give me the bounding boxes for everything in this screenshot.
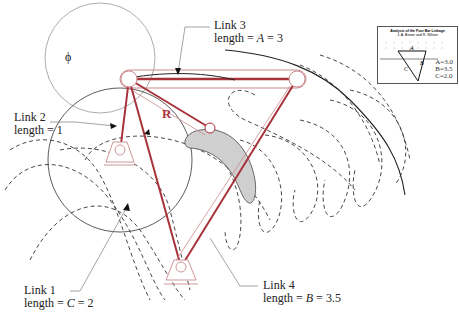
coupler-region-shaded <box>185 129 256 203</box>
link2-label: Link 2 length = 1 <box>14 111 63 137</box>
inset-values: A=3.0 B=3.5 C=2.0 <box>435 59 453 80</box>
ground-pivot-upper <box>104 142 136 165</box>
pivot-top-left <box>121 71 137 87</box>
link4-label: Link 4 length = B = 3.5 <box>263 279 341 305</box>
link1-bar <box>129 79 181 267</box>
pivot-top-right <box>289 71 305 87</box>
inset-thumbnail: Analysis of the Four Bar Linkage J. A. B… <box>377 26 458 84</box>
svg-text:A: A <box>409 45 414 51</box>
svg-text:B: B <box>420 60 424 66</box>
R-label: R <box>162 106 171 122</box>
link3-label: Link 3 length = A = 3 <box>214 19 283 45</box>
link1-label: Link 1 length = C = 2 <box>24 284 94 310</box>
phi-angle-circle <box>45 3 155 113</box>
link2-bar <box>120 79 129 152</box>
phi-label: ϕ <box>65 50 71 65</box>
ground-pivot-lower <box>164 260 198 284</box>
link4-bar <box>181 79 297 267</box>
coupler-point <box>205 123 215 133</box>
coupler-curves <box>5 55 410 300</box>
